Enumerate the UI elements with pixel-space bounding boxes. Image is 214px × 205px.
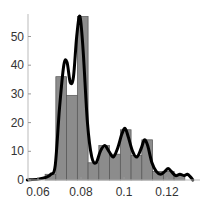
y-tick-label: 30 <box>11 87 25 101</box>
y-tick-label: 40 <box>11 58 25 72</box>
histogram-bar <box>67 95 78 180</box>
x-tick-label: 0.08 <box>69 185 93 199</box>
y-tick-label: 10 <box>11 144 25 158</box>
x-tick-label: 0.1 <box>116 185 133 199</box>
histogram-bar <box>131 156 142 180</box>
y-tick-label: 0 <box>17 173 24 187</box>
histogram-bar <box>88 163 99 180</box>
y-tick-label: 20 <box>11 116 25 130</box>
x-tick-label: 0.06 <box>26 185 50 199</box>
x-tick-label: 0.12 <box>155 185 179 199</box>
y-tick-label: 50 <box>11 30 25 44</box>
histogram-chart: 01020304050 0.060.080.10.12 <box>0 0 214 205</box>
density-curve <box>27 16 193 180</box>
histogram-bar <box>110 154 121 180</box>
